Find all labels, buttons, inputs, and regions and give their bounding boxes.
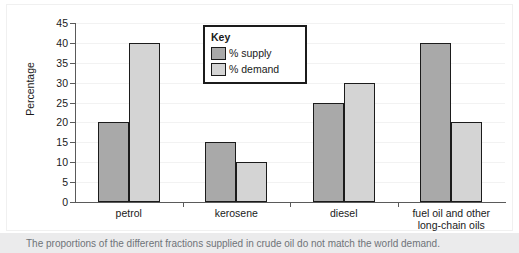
y-axis-tick-labels: 454035302520151050 xyxy=(38,5,68,232)
y-axis-label: Percentage xyxy=(24,44,36,134)
y-axis-tick-label: 10 xyxy=(42,157,68,168)
figure-bar-chart-supply-demand: Percentage 454035302520151050 Key % supp… xyxy=(0,0,519,253)
y-axis-tick-label: 25 xyxy=(42,98,68,109)
x-axis-category-label-line2: long-chain oils xyxy=(398,219,506,231)
bar-supply xyxy=(313,103,344,202)
bar-supply xyxy=(205,142,236,202)
y-axis-tick-label: 30 xyxy=(42,78,68,89)
y-axis-tick-mark xyxy=(70,122,75,123)
y-axis-tick-mark xyxy=(70,202,75,203)
legend-label-demand: % demand xyxy=(229,63,279,75)
legend-title: Key xyxy=(211,31,299,43)
bar-supply xyxy=(420,43,451,202)
bar-demand xyxy=(129,43,160,202)
legend-item-demand: % demand xyxy=(211,61,299,77)
bar-supply xyxy=(98,122,129,202)
x-axis-category-label: kerosene xyxy=(183,207,291,219)
y-axis-tick-mark xyxy=(70,63,75,64)
bar-demand xyxy=(344,83,375,202)
x-axis-category-1: kerosene xyxy=(183,207,291,219)
x-axis-category-label: diesel xyxy=(290,207,398,219)
y-axis-tick-mark xyxy=(70,162,75,163)
figure-caption: The proportions of the different fractio… xyxy=(26,237,496,250)
y-axis-tick-label: 20 xyxy=(42,117,68,128)
y-axis-tick-label: 35 xyxy=(42,58,68,69)
legend-item-supply: % supply xyxy=(211,45,299,61)
bar-demand xyxy=(451,122,482,202)
x-axis-category-label: fuel oil and other xyxy=(398,207,506,219)
y-axis-tick-mark xyxy=(70,103,75,104)
gridline xyxy=(75,23,505,24)
y-axis-tick-label: 0 xyxy=(42,197,68,208)
y-axis-tick-mark xyxy=(70,182,75,183)
caption-band: The proportions of the different fractio… xyxy=(0,233,519,253)
legend-swatch-demand-icon xyxy=(211,63,226,76)
legend-swatch-supply-icon xyxy=(211,47,226,60)
chart-legend: Key % supply % demand xyxy=(203,25,307,84)
chart-panel: Percentage 454035302520151050 Key % supp… xyxy=(6,4,513,231)
y-axis-line xyxy=(75,23,76,203)
x-axis-category-3: fuel oil and otherlong-chain oils xyxy=(398,207,506,231)
legend-label-supply: % supply xyxy=(229,47,272,59)
x-axis-category-label: petrol xyxy=(75,207,183,219)
y-axis-tick-label: 45 xyxy=(42,18,68,29)
x-axis-category-0: petrol xyxy=(75,207,183,219)
x-axis-category-2: diesel xyxy=(290,207,398,219)
y-axis-tick-label: 40 xyxy=(42,38,68,49)
y-axis-tick-mark xyxy=(70,43,75,44)
y-axis-tick-label: 15 xyxy=(42,137,68,148)
y-axis-tick-mark xyxy=(70,23,75,24)
y-axis-tick-mark xyxy=(70,83,75,84)
y-axis-tick-mark xyxy=(70,142,75,143)
y-axis-tick-label: 5 xyxy=(42,177,68,188)
bar-demand xyxy=(236,162,267,202)
